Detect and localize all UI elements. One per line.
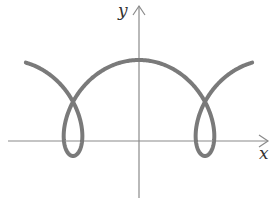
x-axis-label: x (259, 145, 269, 162)
y-axis-label: y (118, 2, 128, 19)
chart-plot (0, 0, 273, 202)
